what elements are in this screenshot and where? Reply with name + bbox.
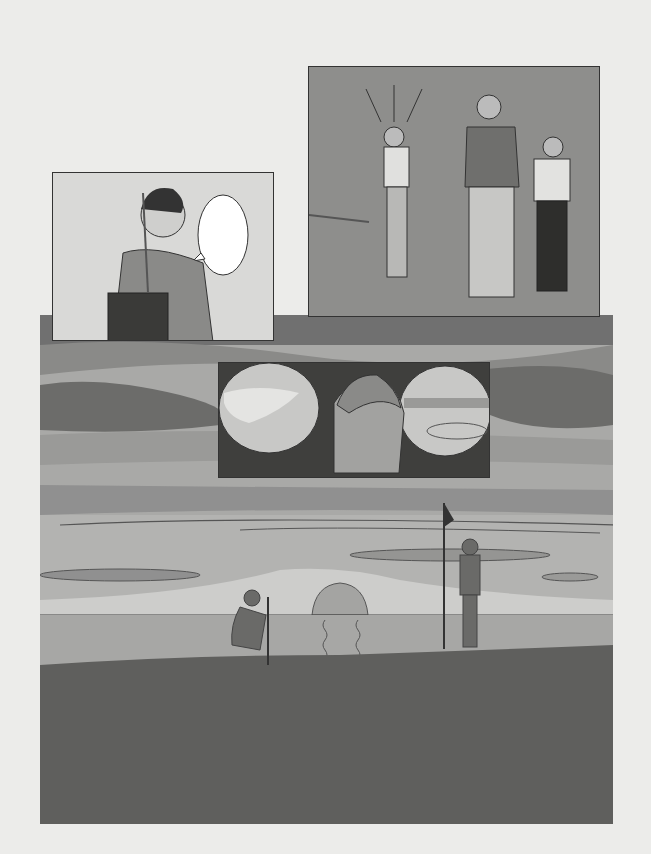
speech-bubble — [198, 195, 248, 275]
panel-closeup-face — [218, 362, 490, 478]
panel-three-men — [308, 66, 600, 317]
caddie-figure — [460, 539, 480, 647]
panel-golfer-pulling-club — [52, 172, 274, 341]
